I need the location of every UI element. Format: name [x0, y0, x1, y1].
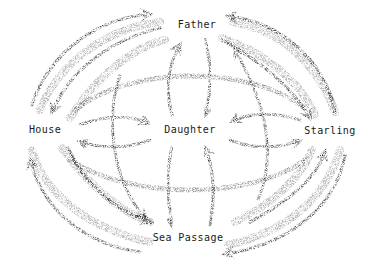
edge-house-daughter: [80, 117, 148, 125]
edge-daughter-father: [168, 45, 180, 115]
edge-sea-daughter: [205, 148, 213, 225]
edge-house-starling-lower: [70, 160, 305, 190]
node-sea-passage: Sea Passage: [153, 233, 224, 243]
edge-daughter-starling: [230, 140, 300, 147]
edge-daughter-sea: [168, 148, 172, 225]
edge-starling-daughter: [232, 114, 300, 122]
node-house: House: [29, 125, 61, 135]
edge-house-starling-upper: [75, 76, 305, 110]
node-father: Father: [178, 20, 217, 30]
node-daughter: Daughter: [164, 125, 215, 135]
node-starling: Starling: [304, 126, 355, 136]
